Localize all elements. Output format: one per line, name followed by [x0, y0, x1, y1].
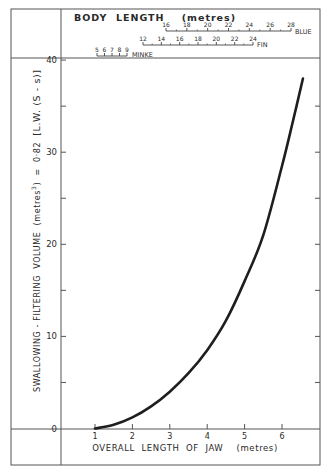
y-axis-title: SWALLOWING - FILTERING VOLUME (metres3) … — [30, 69, 42, 392]
blue-label: BLUE — [295, 28, 312, 36]
y-axis-ticks: 010203040 — [46, 55, 66, 433]
svg-text:SWALLOWING - FILTERING VOLUME: SWALLOWING - FILTERING VOLUME (metres3) … — [30, 69, 42, 392]
y-tick-label: 10 — [46, 331, 57, 341]
x-tick-label: 4 — [205, 432, 210, 441]
scale-tick-label: 5 — [95, 46, 99, 53]
x-tick-label: 1 — [92, 432, 97, 441]
fin-scale: 12141618202224 — [139, 35, 257, 46]
minke-scale: 56789 — [95, 46, 129, 57]
scale-tick-label: 8 — [118, 46, 122, 53]
y-axis-title-main: SWALLOWING - FILTERING VOLUME (metres — [33, 190, 42, 392]
y-axis-title-eq: ) = 0·82 — [33, 142, 42, 186]
scale-tick-label: 22 — [225, 21, 233, 28]
scale-tick-label: 14 — [158, 35, 166, 42]
fin-label: FIN — [257, 41, 268, 49]
volume-curve — [95, 79, 303, 429]
scale-tick-label: 16 — [176, 35, 184, 42]
scale-tick-label: 7 — [110, 46, 114, 53]
y-tick-label: 0 — [52, 424, 57, 434]
blue-scale: 16182022242628 — [162, 21, 295, 32]
chart-figure: BODY LENGTH (metres) 16182022242628 BLUE… — [0, 0, 331, 471]
scale-tick-label: 20 — [213, 35, 221, 42]
right-axis-ticks — [315, 106, 320, 382]
x-axis-ticks: 123456 — [92, 424, 284, 441]
scale-tick-label: 28 — [287, 21, 295, 28]
x-tick-label: 6 — [279, 432, 284, 441]
scale-tick-label: 12 — [139, 35, 147, 42]
y-tick-label: 20 — [46, 239, 57, 249]
scale-tick-label: 24 — [249, 35, 257, 42]
scale-tick-label: 16 — [162, 21, 170, 28]
y-axis-title-bracket: [L.W. (S - s)] — [31, 69, 42, 135]
scale-tick-label: 18 — [183, 21, 191, 28]
scale-tick-label: 18 — [194, 35, 202, 42]
y-tick-label: 30 — [46, 147, 57, 157]
y-tick-label: 40 — [46, 55, 57, 65]
body-length-title: BODY LENGTH (metres) — [74, 12, 236, 23]
scale-tick-label: 26 — [266, 21, 274, 28]
x-tick-label: 2 — [130, 432, 135, 441]
x-tick-label: 3 — [167, 432, 172, 441]
scale-tick-label: 6 — [103, 46, 107, 53]
scale-tick-label: 24 — [246, 21, 254, 28]
scale-tick-label: 9 — [125, 46, 129, 53]
minke-label: MINKE — [132, 51, 153, 59]
scale-tick-label: 20 — [204, 21, 212, 28]
scale-tick-label: 22 — [231, 35, 239, 42]
x-tick-label: 5 — [242, 432, 247, 441]
x-axis-title: OVERALL LENGTH OF JAW (metres) — [92, 443, 278, 453]
